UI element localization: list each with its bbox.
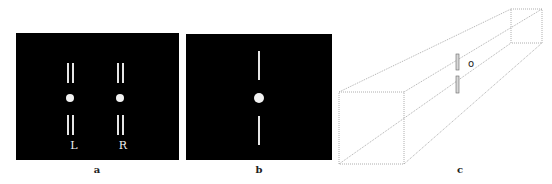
panel-c-perspective-box [0, 0, 552, 184]
caption-c: c [457, 164, 463, 175]
annotation-o: o [468, 58, 474, 69]
stimulus-bars [456, 54, 459, 93]
